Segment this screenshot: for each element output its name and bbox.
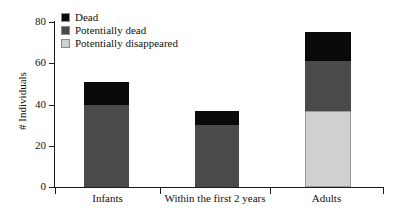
y-axis-tick-label: 20 xyxy=(6,140,46,151)
y-axis-tick-label: 40 xyxy=(6,99,46,110)
y-axis-tick-label: 80 xyxy=(6,16,46,27)
legend-label-dead: Dead xyxy=(75,12,98,23)
bar-segment-potentially-disappeared xyxy=(305,111,351,187)
bar-segment-potentially-dead xyxy=(305,61,351,111)
bar-segment-potentially-dead xyxy=(195,125,239,187)
stacked-bar-chart: # Individuals 020406080 InfantsWithin th… xyxy=(0,0,400,213)
legend-item-dead: Dead xyxy=(61,11,178,23)
bar-segment-dead xyxy=(84,82,129,105)
legend-swatch-potentially-disappeared-icon xyxy=(61,39,70,48)
bar-adults[interactable] xyxy=(305,22,351,187)
legend-swatch-dead-icon xyxy=(61,13,70,22)
legend-item-potentially-disappeared: Potentially disappeared xyxy=(61,37,178,49)
x-axis-line xyxy=(54,187,384,188)
bar-segment-dead xyxy=(195,111,239,125)
x-axis-category-label: Adults xyxy=(270,192,383,204)
bar-segment-dead xyxy=(305,32,351,61)
bar-within-the-first-2-years[interactable] xyxy=(195,22,239,187)
y-axis-tick-label: 0 xyxy=(6,181,46,192)
chart-legend: Dead Potentially dead Potentially disapp… xyxy=(61,11,178,50)
legend-label-potentially-dead: Potentially dead xyxy=(75,25,146,36)
legend-label-potentially-disappeared: Potentially disappeared xyxy=(75,38,178,49)
x-axis-category-label: Infants xyxy=(55,192,160,204)
legend-item-potentially-dead: Potentially dead xyxy=(61,24,178,36)
x-axis-separator-tick xyxy=(383,188,384,194)
y-axis-tick-label: 60 xyxy=(6,57,46,68)
bar-segment-potentially-dead xyxy=(84,105,129,188)
x-axis-category-label: Within the first 2 years xyxy=(160,192,270,204)
legend-swatch-potentially-dead-icon xyxy=(61,26,70,35)
